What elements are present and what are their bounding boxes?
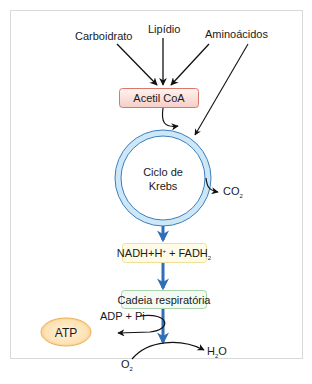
svg-text:Krebs: Krebs xyxy=(149,180,178,192)
nadh-fadh2-box: NADH+H+ + FADH2 xyxy=(117,244,212,263)
svg-text:Acetil CoA: Acetil CoA xyxy=(133,92,185,104)
adp-pi-label: ADP + Pi xyxy=(100,310,145,322)
amino-acids-label: Aminoácidos xyxy=(205,28,268,40)
atp-ellipse: ATP xyxy=(41,318,91,346)
svg-text:ATP: ATP xyxy=(55,326,77,340)
krebs-cycle-ring: Ciclo de Krebs xyxy=(115,130,211,226)
acetyl-coa-box: Acetil CoA xyxy=(120,89,199,108)
carbohydrate-label: Carboidrato xyxy=(75,30,132,42)
svg-text:Ciclo de: Ciclo de xyxy=(143,166,183,178)
krebs-diagram: Carboidrato Lipídio Aminoácidos Acetil C… xyxy=(0,0,312,384)
lipid-label: Lipídio xyxy=(148,23,180,35)
respiratory-chain-box: Cadeia respiratória xyxy=(118,291,212,309)
svg-text:Cadeia respiratória: Cadeia respiratória xyxy=(118,294,212,306)
o2-label: O2 xyxy=(121,358,134,372)
